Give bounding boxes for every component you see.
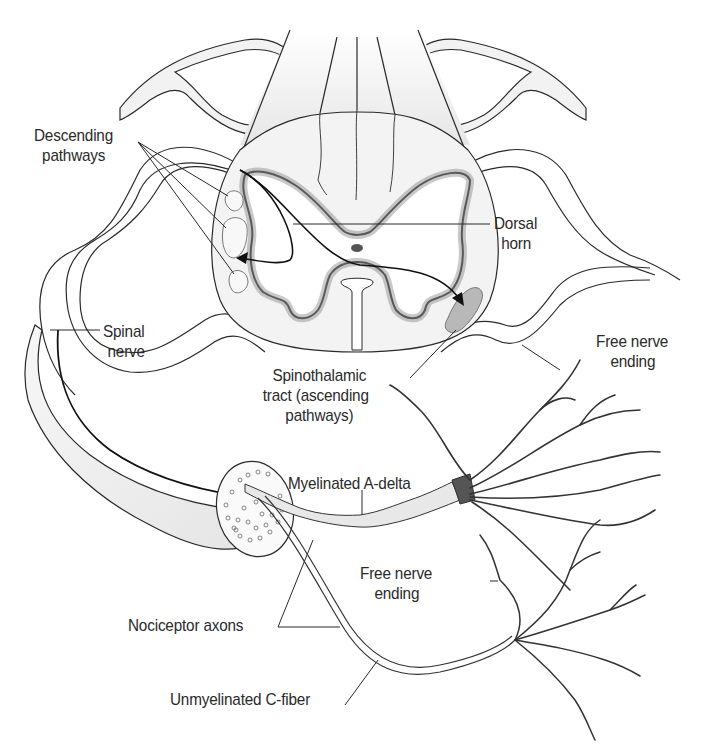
label-unmyelinated-c-fiber: Unmyelinated C-fiber [170,690,310,710]
upper-nerve-branches [390,360,660,590]
label-myelinated-a-delta: Myelinated A-delta [288,474,411,494]
label-descending-pathways: Descending pathways [34,126,113,166]
label-nociceptor-axons: Nociceptor axons [128,616,243,636]
lower-nerve-branches [480,520,645,740]
label-spinal-nerve: Spinal nerve [103,322,145,362]
central-canal [351,244,363,252]
label-free-nerve-ending-bottom: Free nerve ending [360,564,432,604]
label-spinothalamic-tract: Spinothalamic tract (ascending pathways) [270,366,369,426]
label-free-nerve-ending-top: Free nerve ending [596,332,668,372]
label-dorsal-horn: Dorsal horn [494,214,537,254]
nociception-diagram: Descending pathways Dorsal horn Spinal n… [0,0,706,749]
